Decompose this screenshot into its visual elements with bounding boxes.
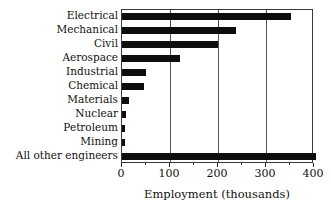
bar: [122, 13, 291, 20]
category-label: Nuclear: [75, 108, 118, 119]
category-label: Chemical: [68, 80, 118, 91]
bar: [122, 41, 218, 48]
category-label: Electrical: [67, 10, 118, 21]
x-tick-label: 300: [255, 168, 276, 180]
x-tick-minor-250: [241, 163, 242, 165]
bar: [122, 139, 125, 146]
category-label: Petroleum: [63, 122, 118, 133]
bar: [122, 27, 236, 34]
bar: [122, 97, 129, 104]
bar: [122, 125, 125, 132]
bar-chart-figure: ElectricalMechanicalCivilAerospaceIndust…: [0, 0, 331, 215]
category-label: Materials: [67, 94, 118, 105]
x-axis-title: Employment (thousands): [121, 187, 313, 201]
x-tick-minor-150: [193, 163, 194, 165]
category-label: All other engineers: [16, 150, 118, 161]
bar: [122, 55, 180, 62]
x-tick-minor-50: [145, 163, 146, 165]
x-axis: 0100200300400: [121, 163, 313, 185]
bar-series: [122, 10, 312, 162]
x-tick-label: 400: [303, 168, 324, 180]
category-axis-labels: ElectricalMechanicalCivilAerospaceIndust…: [0, 9, 118, 163]
x-tick-label: 0: [118, 168, 125, 180]
plot-area: [121, 9, 313, 163]
x-tick-label: 200: [207, 168, 228, 180]
category-label: Mining: [80, 136, 118, 147]
bar: [122, 111, 126, 118]
category-label: Mechanical: [57, 24, 119, 35]
bar: [122, 83, 144, 90]
bar: [122, 69, 146, 76]
category-label: Industrial: [66, 66, 118, 77]
bar: [122, 153, 316, 160]
x-tick-label: 100: [159, 168, 180, 180]
category-label: Aerospace: [62, 52, 118, 63]
x-tick-minor-350: [289, 163, 290, 165]
category-label: Civil: [94, 38, 118, 49]
